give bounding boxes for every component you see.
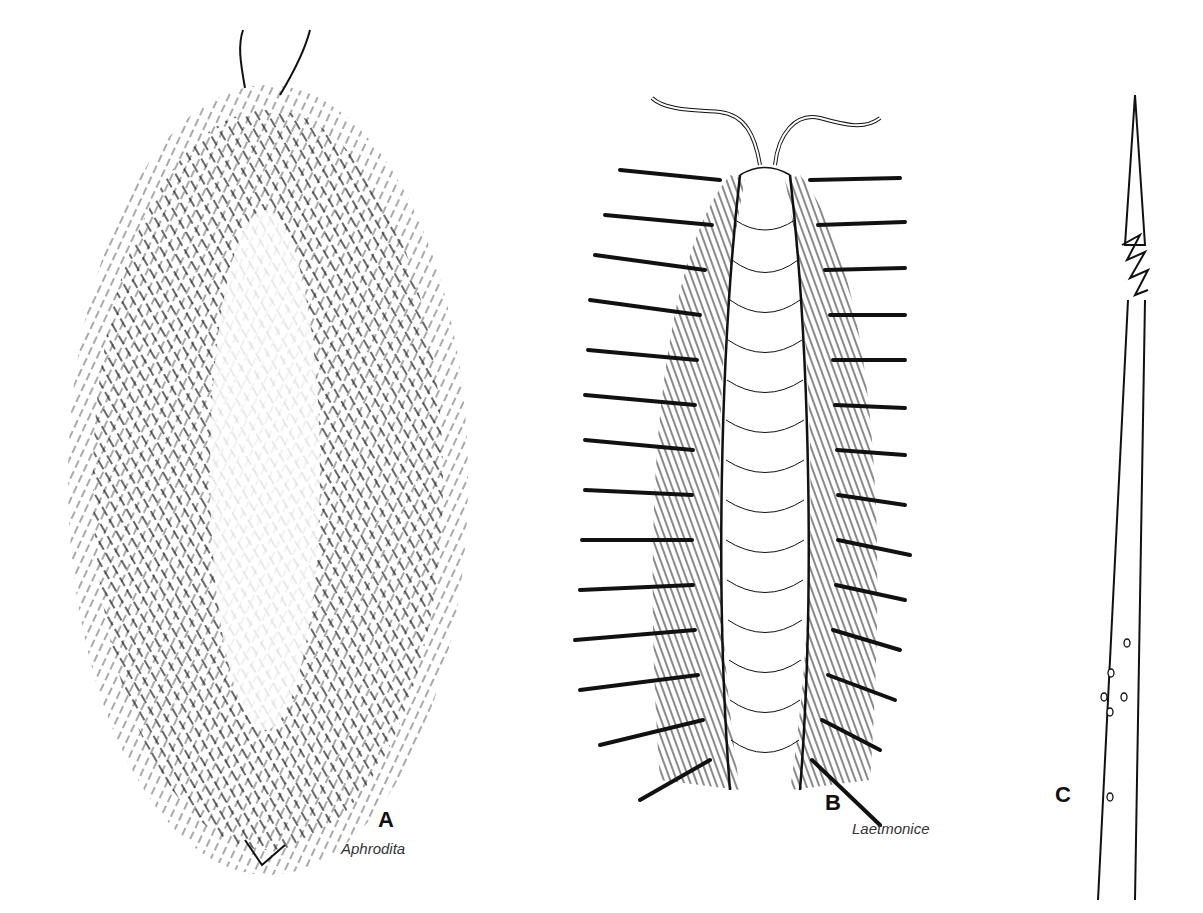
seta-drawing: [0, 0, 1203, 913]
panel-c-label: C: [1055, 782, 1071, 808]
figure: A Aphrodita: [0, 0, 1203, 913]
panel-c-seta-illustration: C: [0, 0, 1203, 913]
